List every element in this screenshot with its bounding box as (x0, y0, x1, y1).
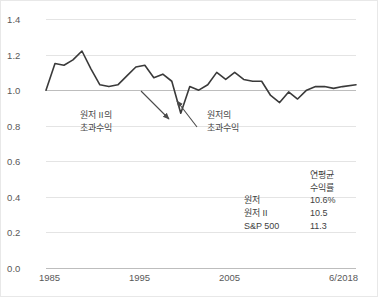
left-annotation-label: 원저 II의 초과수익 (80, 109, 112, 134)
legend-row-value: 10.6% (302, 194, 356, 207)
left-annotation-line2: 초과수익 (80, 122, 112, 135)
legend-row-label: 원저 (244, 194, 302, 207)
x-tick-label: 6/2018 (329, 272, 358, 283)
x-tick-label: 2005 (219, 272, 240, 283)
legend-row: S&P 500 11.3 (244, 220, 356, 233)
legend-header-line2: 수익률 (310, 182, 356, 195)
legend-header-row: 연평균 수익률 (244, 169, 356, 194)
legend-grid: 연평균 수익률 원저 10.6% 원저 II 10.5 S&P 500 11.3 (244, 169, 356, 233)
left-annotation-arrow (141, 91, 169, 119)
right-annotation-arrow (177, 101, 197, 127)
legend-row: 원저 10.6% (244, 194, 356, 207)
right-annotation-line2: 초과수익 (207, 122, 239, 135)
legend-header-line1: 연평균 (310, 169, 356, 182)
legend-header-cell: 연평균 수익률 (302, 169, 356, 194)
legend-row-label: S&P 500 (244, 220, 302, 233)
legend-header-spacer (244, 169, 302, 194)
x-tick-label: 1995 (129, 272, 150, 283)
right-annotation-label: 원저의 초과수익 (207, 109, 239, 134)
left-annotation-line1: 원저 II의 (80, 109, 112, 122)
legend-table: 연평균 수익률 원저 10.6% 원저 II 10.5 S&P 500 11.3 (244, 169, 356, 233)
legend-row: 원저 II 10.5 (244, 207, 356, 220)
chart-container: 1.4 1.2 1.0 0.8 0.6 0.4 0.2 0.0 원저 II의 초… (0, 0, 378, 297)
legend-row-label: 원저 II (244, 207, 302, 220)
right-annotation-line1: 원저의 (207, 109, 239, 122)
annotation-arrow-layer (1, 1, 379, 298)
legend-row-value: 11.3 (302, 220, 356, 233)
x-tick-label: 1985 (39, 272, 60, 283)
legend-row-value: 10.5 (302, 207, 356, 220)
